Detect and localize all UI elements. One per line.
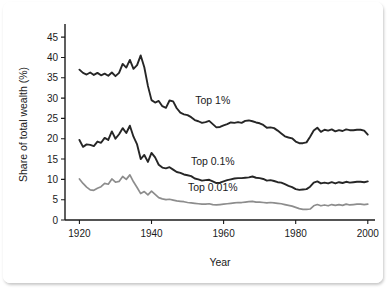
y-tick-label: 5 — [52, 194, 58, 205]
series-label-top-0-01: Top 0.01% — [188, 181, 238, 193]
x-tick-label: 2000 — [357, 228, 380, 239]
x-tick-label: 1920 — [68, 228, 91, 239]
y-tick-label: 35 — [47, 72, 59, 83]
x-axis-title: Year — [209, 256, 231, 268]
y-tick-label: 0 — [52, 215, 58, 226]
y-tick-label: 10 — [47, 174, 59, 185]
y-tick-label: 25 — [47, 113, 59, 124]
y-tick-label: 15 — [47, 154, 59, 165]
series-label-top-0-1: Top 0.1% — [191, 155, 235, 167]
x-tick-label: 1940 — [140, 228, 163, 239]
series-label-top-1: Top 1% — [195, 94, 230, 106]
y-tick-label: 40 — [47, 52, 59, 63]
figure-card: 051015202530354045 19201940196019802000 … — [3, 2, 383, 283]
wealth-share-line-chart: 051015202530354045 19201940196019802000 … — [3, 2, 383, 283]
x-tick-label: 1960 — [212, 228, 235, 239]
y-axis-title: Share of total wealth (%) — [17, 67, 29, 182]
y-tick-label: 20 — [47, 133, 59, 144]
y-tick-label: 45 — [47, 32, 59, 43]
chart-background — [3, 2, 383, 283]
x-tick-label: 1980 — [285, 228, 308, 239]
y-tick-label: 30 — [47, 93, 59, 104]
